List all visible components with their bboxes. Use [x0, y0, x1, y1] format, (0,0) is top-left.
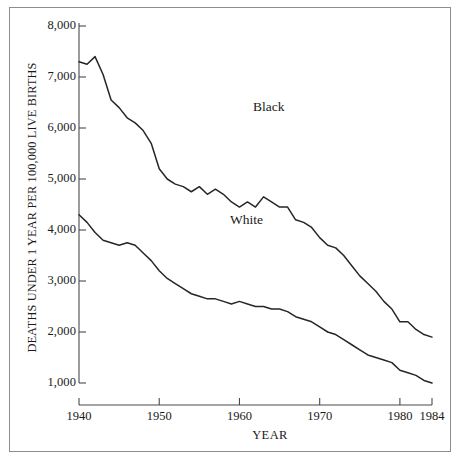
y-tick-label: 7,000: [30, 70, 76, 83]
x-axis-title: YEAR: [105, 428, 435, 443]
series-label-white: White: [230, 213, 263, 227]
x-tick-label: 1940: [67, 410, 92, 423]
y-tick-label: 6,000: [30, 121, 76, 134]
y-tick-label: 8,000: [30, 19, 76, 32]
chart-plot-area: DEATHS UNDER 1 YEAR PER 100,000 LIVE BIR…: [0, 0, 460, 461]
x-tick-label: 1960: [227, 410, 252, 423]
x-tick-label: 1980: [387, 410, 412, 423]
y-tick-label: 1,000: [30, 376, 76, 389]
series-label-black: Black: [253, 100, 285, 114]
y-tick-label: 4,000: [30, 223, 76, 236]
y-tick-label: 3,000: [30, 274, 76, 287]
y-tick-label: 5,000: [30, 172, 76, 185]
x-tick-label: 1950: [147, 410, 172, 423]
series-line-white: [79, 215, 432, 383]
x-tick-label: 1970: [307, 410, 332, 423]
y-tick-label: 2,000: [30, 325, 76, 338]
x-tick-label: 1984: [420, 410, 445, 423]
